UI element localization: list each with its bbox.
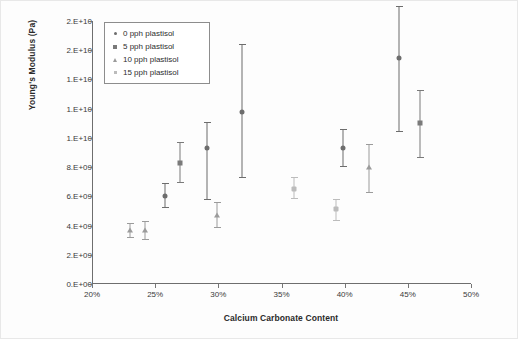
data-marker-triangle — [127, 227, 133, 232]
x-axis-tick-mark — [92, 284, 93, 288]
data-marker-dot — [341, 146, 346, 151]
x-axis-tick-mark — [282, 284, 283, 288]
error-bar-cap-upper — [239, 44, 246, 45]
error-bar-cap-lower — [291, 198, 298, 199]
error-bar-line — [398, 6, 399, 130]
y-axis-tick-label: 2.E+09 — [40, 250, 92, 259]
error-bar-cap-lower — [214, 227, 221, 228]
x-axis-title: Calcium Carbonate Content — [92, 313, 470, 323]
error-bar-cap-lower — [417, 157, 424, 158]
x-axis-tick-label: 45% — [386, 290, 430, 299]
y-axis-tick-mark — [88, 79, 92, 80]
x-axis-tick-mark — [218, 284, 219, 288]
error-bar-cap-lower — [127, 237, 134, 238]
error-bar-cap-lower — [340, 166, 347, 167]
legend-x-icon — [110, 68, 120, 78]
y-axis-tick-label: 1.E+10 — [40, 104, 92, 113]
data-marker-x — [292, 187, 297, 192]
x-axis-tick-mark — [471, 284, 472, 288]
error-bar-cap-lower — [239, 177, 246, 178]
error-bar-cap-upper — [142, 221, 149, 222]
error-bar-cap-lower — [142, 239, 149, 240]
error-bar-cap-upper — [162, 183, 169, 184]
data-marker-triangle — [214, 213, 220, 218]
x-axis-tick-label: 35% — [260, 290, 304, 299]
x-axis-tick-label: 30% — [196, 290, 240, 299]
data-marker-triangle — [366, 165, 372, 170]
legend-item-label: 0 pph plastisol — [123, 29, 174, 38]
y-axis-tick-label: 4.E+09 — [40, 221, 92, 230]
y-axis-tick-label: 1.E+10 — [40, 133, 92, 142]
y-axis-tick-label: 6.E+09 — [40, 192, 92, 201]
y-axis-tick-mark — [88, 255, 92, 256]
y-axis-tick-mark — [88, 167, 92, 168]
error-bar-cap-upper — [214, 202, 221, 203]
data-marker-x — [333, 207, 338, 212]
y-axis-tick-mark — [88, 21, 92, 22]
legend-triangle-icon — [110, 55, 120, 65]
data-marker-square — [178, 160, 183, 165]
legend-item: 10 pph plastisol — [110, 53, 204, 66]
y-axis-tick-label: 2.E+10 — [40, 46, 92, 55]
x-axis-tick-label: 25% — [133, 290, 177, 299]
legend-item-label: 5 pph plastisol — [123, 42, 174, 51]
x-axis-tick-mark — [155, 284, 156, 288]
error-bar-cap-upper — [204, 122, 211, 123]
error-bar-cap-lower — [333, 220, 340, 221]
error-bar-cap-upper — [177, 142, 184, 143]
legend-item-label: 15 pph plastisol — [123, 68, 179, 77]
x-axis-tick-label: 20% — [70, 290, 114, 299]
error-bar-cap-upper — [340, 129, 347, 130]
error-bar-cap-upper — [396, 6, 403, 7]
chart-legend: 0 pph plastisol5 pph plastisol10 pph pla… — [104, 22, 210, 84]
error-bar-cap-upper — [291, 177, 298, 178]
legend-item: 5 pph plastisol — [110, 40, 204, 53]
y-axis-tick-mark — [88, 196, 92, 197]
legend-item: 0 pph plastisol — [110, 27, 204, 40]
y-axis-tick-mark — [88, 50, 92, 51]
error-bar-cap-upper — [417, 90, 424, 91]
data-marker-dot — [163, 194, 168, 199]
y-axis-tick-label: 1.E+10 — [40, 75, 92, 84]
x-axis-tick-mark — [345, 284, 346, 288]
error-bar-cap-lower — [204, 199, 211, 200]
legend-item-label: 10 pph plastisol — [123, 55, 179, 64]
y-axis-tick-label: 8.E+09 — [40, 163, 92, 172]
error-bar-cap-upper — [127, 223, 134, 224]
x-axis-tick-label: 50% — [449, 290, 493, 299]
error-bar-cap-lower — [396, 131, 403, 132]
x-axis-tick-mark — [408, 284, 409, 288]
legend-square-icon — [110, 42, 120, 52]
legend-dot-icon — [110, 29, 120, 39]
y-axis-tick-label: 0.E+00 — [40, 280, 92, 289]
data-marker-dot — [204, 146, 209, 151]
error-bar-line — [206, 122, 207, 199]
data-marker-square — [418, 121, 423, 126]
error-bar-cap-upper — [366, 144, 373, 145]
error-bar-cap-upper — [333, 199, 340, 200]
y-axis-tick-label: 2.E+10 — [40, 17, 92, 26]
y-axis-tick-labels: 2.E+102.E+101.E+101.E+101.E+108.E+096.E+… — [36, 0, 92, 338]
error-bar-cap-lower — [366, 192, 373, 193]
data-marker-dot — [396, 55, 401, 60]
error-bar-cap-lower — [162, 207, 169, 208]
legend-item: 15 pph plastisol — [110, 66, 204, 79]
y-axis-tick-mark — [88, 109, 92, 110]
data-marker-dot — [240, 109, 245, 114]
y-axis-tick-mark — [88, 138, 92, 139]
data-marker-triangle — [142, 227, 148, 232]
y-axis-tick-mark — [88, 226, 92, 227]
x-axis-tick-label: 40% — [323, 290, 367, 299]
error-bar-cap-lower — [177, 182, 184, 183]
